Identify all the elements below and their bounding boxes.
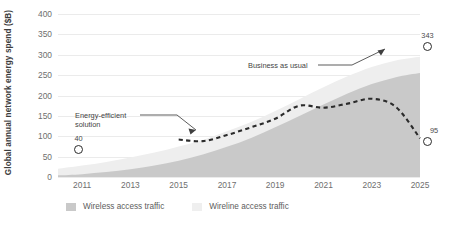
y-tick: 200 xyxy=(10,91,52,101)
x-tick: 2019 xyxy=(255,180,295,190)
business-as-usual-annotation: Business as usual xyxy=(248,61,308,70)
y-tick: 350 xyxy=(10,29,52,39)
x-tick: 2017 xyxy=(207,180,247,190)
y-tick: 150 xyxy=(10,111,52,121)
y-tick: 250 xyxy=(10,70,52,80)
y-axis-ticks: 0 50 100 150 200 250 300 350 400 xyxy=(8,14,52,177)
legend: Wireless access traffic Wireline access … xyxy=(66,202,317,211)
business-as-usual-end-marker xyxy=(423,42,432,51)
legend-swatch-wireless xyxy=(66,203,76,211)
y-tick: 100 xyxy=(10,131,52,141)
energy-spend-chart: Global annual network energy spend ($B) … xyxy=(0,0,459,231)
y-tick: 0 xyxy=(10,172,52,182)
y-tick: 300 xyxy=(10,50,52,60)
x-tick: 2013 xyxy=(110,180,150,190)
start-marker-label: 40 xyxy=(74,134,82,143)
area-series-group xyxy=(58,14,420,177)
x-tick: 2023 xyxy=(352,180,392,190)
x-tick: 2025 xyxy=(400,180,440,190)
plot-area xyxy=(58,14,420,177)
x-tick: 2011 xyxy=(62,180,102,190)
legend-swatch-wireline xyxy=(192,203,202,211)
legend-item-wireless[interactable]: Wireless access traffic xyxy=(66,202,164,211)
energy-efficient-annotation: Energy-efficient solution xyxy=(75,111,126,130)
legend-label-wireline: Wireline access traffic xyxy=(209,202,288,211)
business-as-usual-end-marker-label: 343 xyxy=(421,31,433,40)
start-marker xyxy=(74,145,83,154)
legend-label-wireless: Wireless access traffic xyxy=(83,202,164,211)
energy-efficient-annotation-line2: solution xyxy=(75,120,126,129)
energy-efficient-end-marker xyxy=(423,137,432,146)
x-tick: 2021 xyxy=(304,180,344,190)
energy-efficient-annotation-line1: Energy-efficient xyxy=(75,111,126,120)
x-tick: 2015 xyxy=(159,180,199,190)
y-tick: 50 xyxy=(10,152,52,162)
gridline xyxy=(58,177,420,178)
x-axis-ticks: 2011 2013 2015 2017 2019 2021 2023 2025 xyxy=(58,180,420,194)
energy-efficient-end-marker-label: 95 xyxy=(430,126,438,135)
y-tick: 400 xyxy=(10,9,52,19)
legend-item-wireline[interactable]: Wireline access traffic xyxy=(192,202,288,211)
